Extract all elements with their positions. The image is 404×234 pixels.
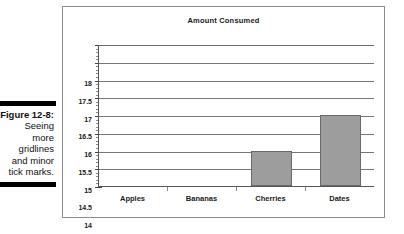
y-axis-tick-label: 15.5 bbox=[78, 168, 92, 175]
caption-line-5: tick marks. bbox=[0, 166, 54, 177]
caption-line-3: gridlines bbox=[0, 143, 54, 154]
y-axis-tick-label: 17.5 bbox=[78, 97, 92, 104]
caption-line-2: more bbox=[0, 132, 54, 143]
x-axis-label-group: ApplesBananasCherriesDates bbox=[98, 194, 374, 208]
y-axis-tick-label: 15 bbox=[84, 186, 92, 193]
y-axis-tick-label: 14.5 bbox=[78, 204, 92, 211]
caption-rule-bottom bbox=[0, 182, 56, 187]
bar bbox=[251, 151, 291, 187]
bar-series-group bbox=[99, 45, 374, 186]
y-axis-tick-label: 17 bbox=[84, 115, 92, 122]
plot-area bbox=[98, 45, 374, 187]
caption-figure-number: Figure 12-8: bbox=[0, 109, 54, 120]
chart-figure-frame: Amount Consumed 1817.51716.51615.51514.5… bbox=[62, 6, 385, 218]
figure-caption-text: Figure 12-8: Seeing more gridlines and m… bbox=[0, 106, 56, 180]
x-axis-tick bbox=[167, 187, 168, 191]
chart-title: Amount Consumed bbox=[63, 16, 384, 25]
x-axis-tick-label: Bananas bbox=[186, 194, 217, 203]
figure-caption-block: Figure 12-8: Seeing more gridlines and m… bbox=[0, 101, 56, 187]
x-axis-tick-label: Cherries bbox=[255, 194, 285, 203]
y-axis-tick-label: 18 bbox=[84, 80, 92, 87]
y-axis-tick-label: 16 bbox=[84, 151, 92, 158]
caption-line-4: and minor bbox=[0, 155, 54, 166]
y-axis-label-group: 1817.51716.51615.51514.514 bbox=[63, 45, 96, 187]
x-axis-tick-group bbox=[98, 187, 374, 193]
y-axis-tick-label: 14 bbox=[84, 222, 92, 229]
x-axis-tick bbox=[236, 187, 237, 191]
y-axis-tick-label: 16.5 bbox=[78, 133, 92, 140]
caption-line-1: Seeing bbox=[0, 120, 54, 131]
x-axis-tick-label: Dates bbox=[329, 194, 349, 203]
bar bbox=[320, 115, 360, 186]
x-axis-tick-label: Apples bbox=[120, 194, 145, 203]
x-axis-tick bbox=[305, 187, 306, 191]
